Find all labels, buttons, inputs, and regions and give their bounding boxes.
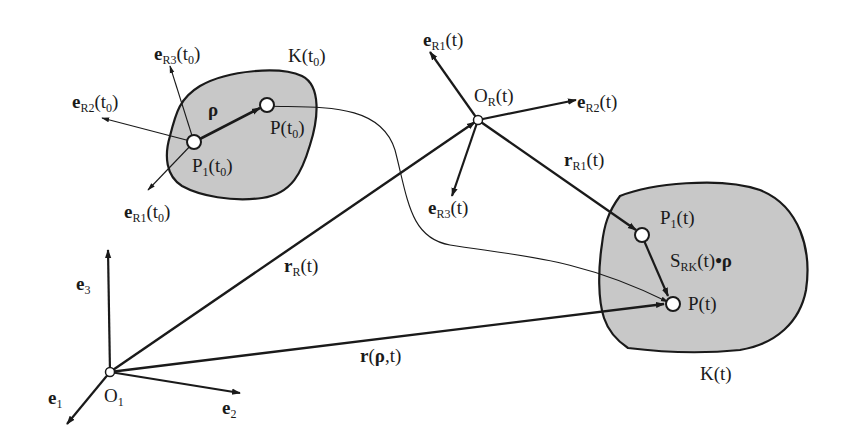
label-P-t0: P(t0)	[270, 117, 305, 141]
label-r-R: rR(t)	[284, 255, 318, 279]
label-e1: e1	[48, 387, 62, 411]
label-O1: O1	[104, 385, 124, 409]
label-r-R1: rR1(t)	[564, 149, 604, 173]
label-P1-t0: P1(t0)	[192, 155, 233, 179]
point-P1-t0	[187, 135, 201, 149]
label-P-t: P(t)	[688, 293, 717, 315]
point-O1	[106, 368, 115, 377]
label-eR3-t0: eR3(t0)	[154, 43, 200, 67]
label-eR1-t: eR1(t)	[423, 29, 463, 53]
label-eR3-t: eR3(t)	[428, 197, 468, 221]
point-P-t0	[260, 98, 274, 112]
point-P-t	[666, 297, 680, 311]
label-e2: e2	[222, 397, 236, 421]
axis-e2	[110, 372, 240, 393]
point-OR	[474, 116, 483, 125]
label-body-k-t: K(t)	[700, 363, 732, 385]
label-eR2-t0: eR2(t0)	[72, 91, 118, 115]
label-eR2-t: eR2(t)	[577, 91, 617, 115]
label-e3: e3	[76, 273, 90, 297]
axis-eR3-t	[452, 120, 478, 196]
vector-r-R1	[478, 120, 636, 230]
label-r-rho-t: r(ρ,t)	[360, 345, 401, 367]
rigid-body-kinematics-diagram: eR3(t0) eR2(t0) eR1(t0) K(t0) ρ P(t0) P1…	[0, 0, 853, 447]
label-s-rk-rho: SRK(t)•ρ	[670, 250, 732, 274]
label-P1-t: P1(t)	[660, 207, 695, 231]
label-eR1-t0: eR1(t0)	[124, 201, 170, 225]
label-OR-t: OR(t)	[474, 85, 514, 109]
axis-e3	[108, 250, 110, 372]
label-rho: ρ	[208, 99, 218, 120]
label-body-k-t0: K(t0)	[288, 45, 326, 69]
point-P1-t	[635, 228, 649, 242]
axis-eR1-t	[430, 52, 478, 120]
